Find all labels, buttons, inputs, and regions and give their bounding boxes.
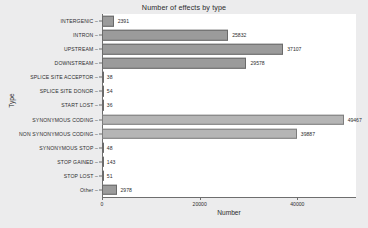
bar — [102, 72, 104, 83]
bar — [102, 128, 297, 139]
y-tick-label: SYNONYMOUS STOP – — [39, 145, 98, 151]
bar-value-label: 2391 — [118, 18, 129, 24]
y-tick-label: SYNONYMOUS CODING – — [32, 117, 98, 123]
bar-row: SPLICE SITE DONOR –54 — [0, 84, 368, 98]
y-tick-label: STOP GAINED – — [57, 159, 98, 165]
bar-value-label: 39887 — [301, 131, 315, 137]
bar — [102, 16, 114, 27]
chart-title: Number of effects by type — [0, 3, 368, 12]
x-tick-mark — [297, 197, 298, 200]
bar-row: SPLICE SITE ACCEPTOR –38 — [0, 70, 368, 84]
bar-row: DOWNSTREAM –29578 — [0, 56, 368, 70]
x-axis-title: Number — [102, 209, 356, 216]
bar-row: NON SYNONYMOUS CODING –39887 — [0, 127, 368, 141]
x-tick-label: 40000 — [290, 201, 304, 207]
bar — [102, 171, 104, 182]
y-tick-label: STOP LOST – — [64, 173, 98, 179]
bar — [102, 157, 104, 168]
bar — [102, 100, 104, 111]
y-tick-label: Other – — [80, 187, 98, 193]
y-tick-label: INTERGENIC – — [61, 18, 98, 24]
x-tick-label: 0 — [101, 201, 104, 207]
bar-value-label: 143 — [107, 159, 116, 165]
y-tick-label: INTRON – — [73, 32, 98, 38]
bar-value-label: 49467 — [348, 117, 362, 123]
y-tick-label: UPSTREAM – — [64, 46, 98, 52]
bar-value-label: 25832 — [232, 32, 246, 38]
bar — [102, 30, 228, 41]
y-tick-label: SPLICE SITE ACCEPTOR – — [30, 74, 98, 80]
bar — [102, 86, 104, 97]
y-tick-label: NON SYNONYMOUS CODING – — [19, 131, 98, 137]
chart-figure: Number of effects by type INTERGENIC –23… — [0, 0, 368, 228]
y-tick-label: SPLICE SITE DONOR – — [40, 88, 98, 94]
x-tick-mark — [200, 197, 201, 200]
bar-value-label: 48 — [107, 145, 113, 151]
y-axis-title: Type — [8, 81, 15, 121]
bar-value-label: 37107 — [287, 46, 301, 52]
bar-value-label: 29578 — [250, 60, 264, 66]
x-tick-label: 20000 — [193, 201, 207, 207]
bar — [102, 185, 117, 196]
bar-row: START LOST –36 — [0, 98, 368, 112]
y-tick-label: DOWNSTREAM – — [55, 60, 98, 66]
bar — [102, 58, 246, 69]
bar — [102, 114, 344, 125]
bar-row: Other –2978 — [0, 183, 368, 197]
bar-value-label: 54 — [107, 88, 113, 94]
y-tick-label: START LOST – — [61, 102, 98, 108]
bar — [102, 142, 104, 153]
bar-row: UPSTREAM –37107 — [0, 42, 368, 56]
bar-value-label: 38 — [107, 74, 113, 80]
bar-row: INTRON –25832 — [0, 28, 368, 42]
bar-row: STOP LOST –51 — [0, 169, 368, 183]
bar — [102, 44, 283, 55]
bar-row: INTERGENIC –2391 — [0, 14, 368, 28]
bar-row: SYNONYMOUS CODING –49467 — [0, 113, 368, 127]
bar-row: STOP GAINED –143 — [0, 155, 368, 169]
bar-value-label: 2978 — [121, 187, 132, 193]
bar-row: SYNONYMOUS STOP –48 — [0, 141, 368, 155]
bar-value-label: 36 — [107, 102, 113, 108]
x-tick-mark — [102, 197, 103, 200]
bar-value-label: 51 — [107, 173, 113, 179]
